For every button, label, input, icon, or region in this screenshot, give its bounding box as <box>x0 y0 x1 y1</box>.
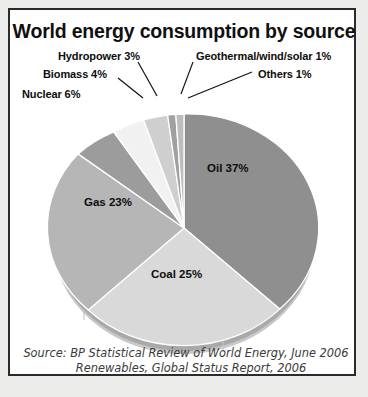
slice-label-gas: Gas 23% <box>84 196 132 208</box>
slice-label-oil: Oil 37% <box>207 162 249 174</box>
slice-label-coal: Coal 25% <box>151 268 202 280</box>
source-line-primary: Source: BP Statistical Review of World E… <box>10 346 358 361</box>
callout-label-biomass: Biomass 4% <box>43 68 107 80</box>
pie-chart: Hydropower 3% Biomass 4% Nuclear 6% Geot… <box>10 10 358 378</box>
callout-label-nuclear: Nuclear 6% <box>22 88 80 100</box>
chart-frame: World energy consumption by source <box>8 8 356 376</box>
callout-label-others: Others 1% <box>258 68 312 80</box>
source-line-secondary: Renewables, Global Status Report, 2006 <box>10 361 358 376</box>
leader-line-others <box>188 72 252 98</box>
leader-line-geothermal <box>181 62 193 94</box>
callout-label-hydropower: Hydropower 3% <box>58 50 140 62</box>
leader-line-hydropower <box>138 62 157 96</box>
source-note: Source: BP Statistical Review of World E… <box>10 346 358 376</box>
leader-line-biomass <box>118 78 143 98</box>
callout-label-geothermal: Geothermal/wind/solar 1% <box>196 50 331 62</box>
chart-figure: World energy consumption by source <box>0 0 368 397</box>
pie-chart-svg <box>10 10 358 378</box>
callout-leader-lines <box>118 62 252 98</box>
